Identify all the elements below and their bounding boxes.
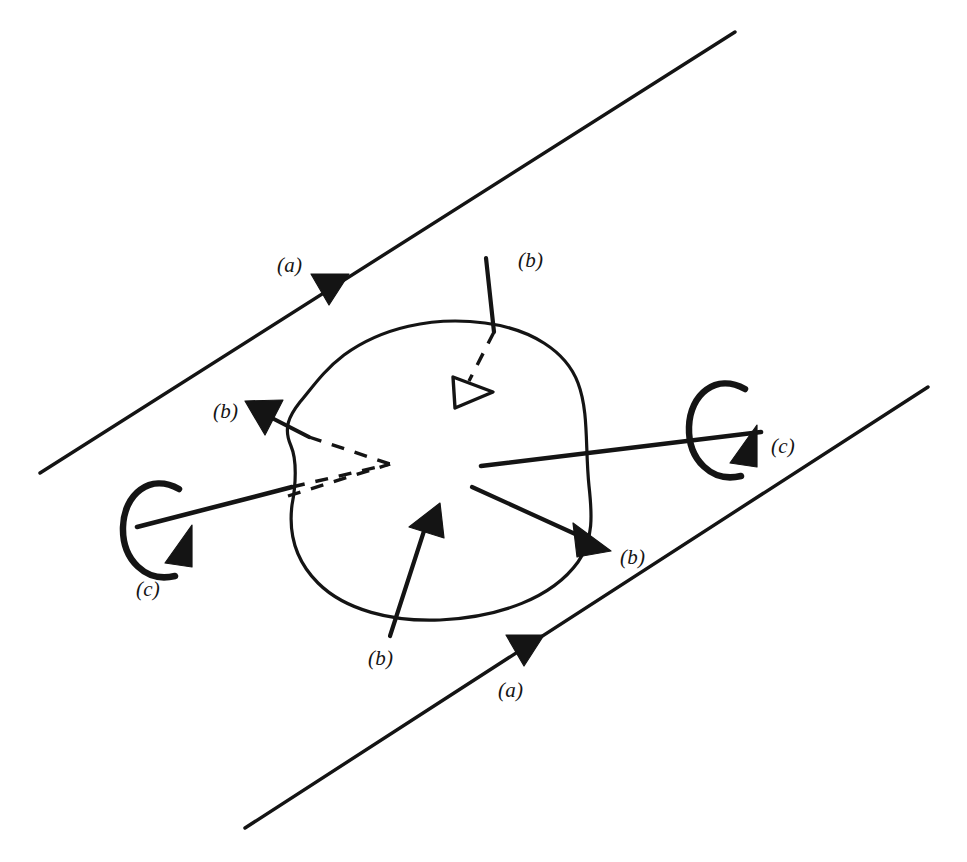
label-translation-top: (b) bbox=[518, 248, 543, 273]
label-translation-left: (b) bbox=[213, 399, 238, 424]
translation-vector-bottom-head bbox=[409, 503, 444, 538]
rotation-axis-left-shaft bbox=[137, 487, 292, 527]
translation-vector-top-group bbox=[453, 258, 494, 408]
translation-vector-right-shaft bbox=[472, 487, 584, 538]
rotation-axis-left-group bbox=[123, 464, 390, 577]
guide-line-upper bbox=[40, 32, 735, 473]
translation-vector-top-hidden-shaft bbox=[469, 332, 494, 381]
rotation-axis-right-shaft bbox=[481, 432, 761, 466]
rotation-axis-right-group bbox=[481, 384, 761, 478]
guide-direction-marker-lower bbox=[506, 635, 544, 666]
label-guide-upper: (a) bbox=[277, 253, 302, 278]
label-rotation-left: (c) bbox=[136, 577, 160, 602]
label-translation-right: (b) bbox=[620, 545, 645, 570]
label-translation-bottom: (b) bbox=[368, 646, 393, 671]
hidden-construction-line-upper bbox=[309, 437, 390, 464]
translation-vector-bottom-group bbox=[390, 503, 444, 636]
rotation-arrow-left-head bbox=[165, 525, 192, 567]
rotation-arrow-right-head bbox=[730, 425, 757, 467]
label-rotation-right: (c) bbox=[771, 434, 795, 459]
rigid-body-motion-diagram bbox=[0, 0, 967, 862]
translation-vector-top-shaft bbox=[486, 258, 494, 332]
figure-canvas: (a) (a) (c) (c) (b) (b) (b) (b) bbox=[0, 0, 967, 862]
guide-lines-group bbox=[40, 32, 928, 828]
guide-direction-marker-upper bbox=[311, 274, 349, 305]
rotation-axis-left-hidden-shaft bbox=[292, 464, 390, 487]
rigid-body-outline bbox=[287, 321, 591, 620]
translation-vector-top-head bbox=[453, 377, 493, 408]
translation-vector-left-head bbox=[245, 400, 283, 435]
label-guide-lower: (a) bbox=[498, 678, 523, 703]
